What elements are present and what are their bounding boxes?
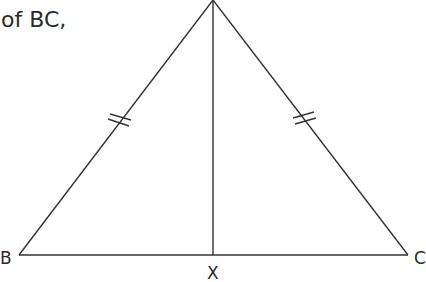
vertex-label-b: B (0, 250, 12, 267)
point-label-x: X (207, 265, 219, 282)
side-ac (213, 0, 408, 255)
tick-mark-right-1 (293, 112, 314, 118)
tick-mark-left-1 (110, 114, 131, 120)
isosceles-triangle-diagram (0, 0, 426, 282)
side-ab (19, 0, 213, 255)
vertex-label-c: C (414, 250, 426, 267)
tick-mark-right-2 (295, 118, 316, 124)
